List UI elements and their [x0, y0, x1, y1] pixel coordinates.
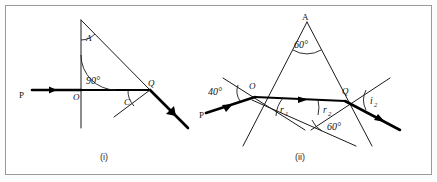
diagram-ii-point-o-label: O: [249, 81, 256, 91]
diagram-ii-incident-ray-label: P: [199, 110, 204, 120]
diagram-i-incident-ray-label: P: [19, 90, 24, 100]
diagram-ii-i2-symbol: i: [370, 96, 373, 106]
figure-root: A 90° C P O Q (i): [0, 0, 437, 182]
diagram-i-apex-label: A: [85, 33, 92, 43]
diagram-i-critical-angle-label: C: [124, 97, 131, 107]
diagram-ii-apex-angle-label: 60°: [294, 39, 308, 50]
diagram-ii-apex-label: A: [302, 12, 309, 22]
diagram-ii-base-angle-label: 60°: [327, 121, 341, 132]
diagram-ii-caption: (ii): [295, 152, 305, 162]
diagram-i-point-o-label: O: [73, 92, 80, 102]
diagram-i-point-q-label: Q: [148, 78, 155, 88]
diagram-i-right-angle-label: 90°: [86, 75, 100, 86]
diagram-i-caption: (i): [100, 152, 108, 162]
diagram-ii-r1-subscript: 1: [285, 110, 288, 117]
diagram-ii-r2-symbol: r: [323, 105, 327, 115]
diagram-ii-point-q-label: Q: [342, 86, 349, 96]
diagram-ii-incidence-angle-label: 40°: [208, 86, 222, 97]
ray-diagram-canvas: A 90° C P O Q (i): [0, 0, 437, 182]
diagram-ii-r1-symbol: r: [280, 105, 284, 115]
